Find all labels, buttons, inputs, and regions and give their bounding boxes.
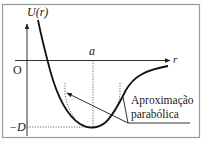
depth-label: −D: [9, 120, 26, 134]
parabola-left-branch: [65, 83, 75, 118]
equilibrium-label: a: [89, 44, 95, 58]
annotation-pointer-right: [123, 97, 128, 123]
annotation-arrow: [67, 93, 128, 123]
y-axis-label: U(r): [27, 5, 48, 19]
parabola-right-branch: [112, 83, 120, 116]
potential-energy-diagram: U(r) r O a −D Aproximação parabólica: [0, 0, 203, 142]
annotation-label-line1: Aproximação: [131, 94, 194, 107]
origin-label: O: [13, 63, 22, 77]
x-axis-label: r: [173, 53, 178, 65]
annotation-label-line2: parabólica: [131, 108, 179, 121]
